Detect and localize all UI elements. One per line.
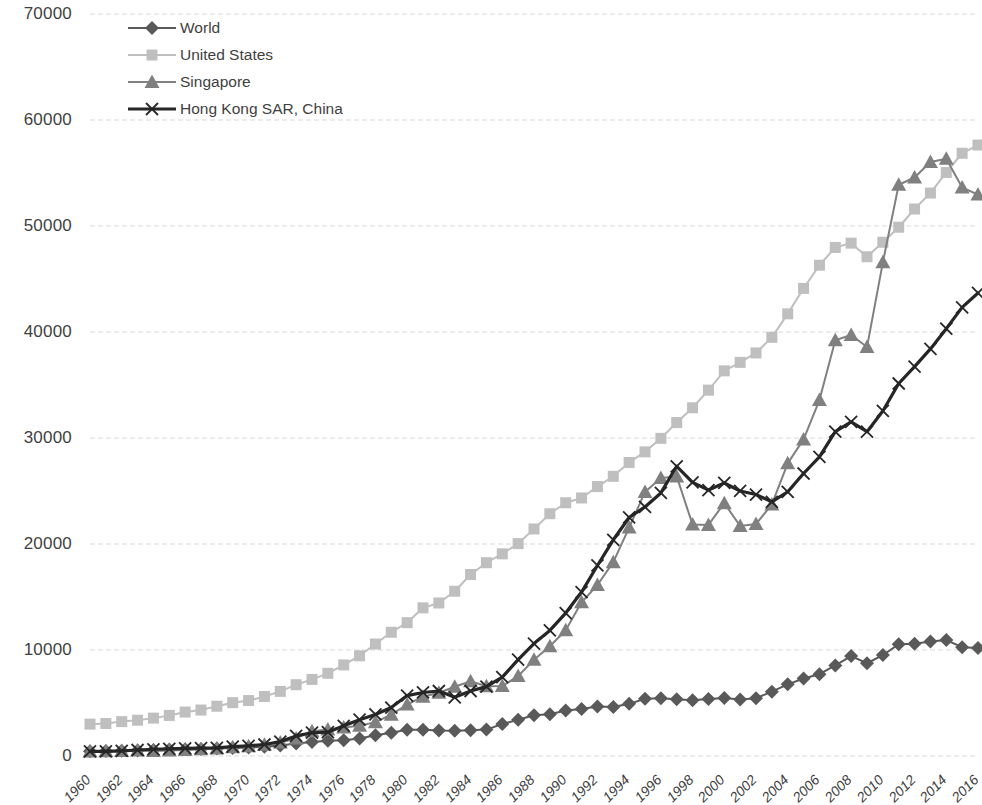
data-point-marker xyxy=(527,708,541,722)
x-tick-label: 2012 xyxy=(885,772,918,805)
data-point-marker xyxy=(877,405,889,417)
x-tick-label: 2000 xyxy=(695,772,728,805)
data-point-marker xyxy=(145,21,159,35)
y-tick-label: 20000 xyxy=(24,534,72,554)
data-point-marker xyxy=(575,702,589,716)
data-point-marker xyxy=(971,641,982,655)
data-point-marker xyxy=(781,677,795,691)
data-point-marker xyxy=(703,385,714,396)
y-tick-label: 30000 xyxy=(24,428,72,448)
data-point-marker xyxy=(100,718,111,729)
data-point-marker xyxy=(354,650,365,661)
data-point-marker xyxy=(511,713,525,727)
series-hong-kong-sar-china xyxy=(84,287,982,757)
data-point-marker xyxy=(447,679,462,693)
legend-item-label: World xyxy=(180,19,220,37)
data-point-marker xyxy=(957,148,968,159)
y-tick-label: 70000 xyxy=(24,4,72,24)
data-point-marker xyxy=(479,723,493,737)
legend-item-world[interactable]: World xyxy=(128,18,343,38)
legend-item-united-states[interactable]: United States xyxy=(128,45,343,65)
data-point-marker xyxy=(670,692,684,706)
x-tick-label: 1988 xyxy=(504,772,537,805)
legend-item-hong-kong-sar-china[interactable]: Hong Kong SAR, China xyxy=(128,99,343,119)
data-point-marker xyxy=(939,151,954,165)
data-point-marker xyxy=(797,672,811,686)
data-point-marker xyxy=(322,668,333,679)
data-point-marker xyxy=(418,602,429,613)
y-tick-label: 40000 xyxy=(24,322,72,342)
data-point-marker xyxy=(718,477,730,489)
data-point-marker xyxy=(798,468,810,480)
data-point-marker xyxy=(337,733,351,747)
data-point-marker xyxy=(829,426,841,438)
data-point-marker xyxy=(624,457,635,468)
data-point-marker xyxy=(544,624,556,636)
data-point-marker xyxy=(655,487,667,499)
data-point-marker xyxy=(590,699,604,713)
data-point-marker xyxy=(733,693,747,707)
data-point-marker xyxy=(971,187,982,201)
y-tick-label: 0 xyxy=(62,746,72,766)
data-point-marker xyxy=(497,548,508,559)
data-point-marker xyxy=(972,287,982,299)
legend-swatch-icon xyxy=(128,47,176,63)
data-point-marker xyxy=(132,715,143,726)
data-point-marker xyxy=(259,691,270,702)
data-point-marker xyxy=(973,140,982,151)
data-point-marker xyxy=(368,728,382,742)
data-point-marker xyxy=(640,446,651,457)
series-world xyxy=(83,633,982,758)
data-point-marker xyxy=(923,635,937,649)
data-point-marker xyxy=(798,283,809,294)
data-point-marker xyxy=(812,393,827,407)
data-point-marker xyxy=(433,597,444,608)
data-point-marker xyxy=(464,723,478,737)
data-point-marker xyxy=(655,433,666,444)
data-point-marker xyxy=(338,659,349,670)
data-point-marker xyxy=(845,416,857,428)
data-point-marker xyxy=(909,361,921,373)
legend-item-label: United States xyxy=(180,46,273,64)
data-point-marker xyxy=(558,623,573,637)
data-point-marker xyxy=(893,377,905,389)
chart-legend: WorldUnited StatesSingaporeHong Kong SAR… xyxy=(128,18,343,119)
data-point-marker xyxy=(608,471,619,482)
data-point-marker xyxy=(638,692,652,706)
data-point-marker xyxy=(559,704,573,718)
x-tick-label: 1984 xyxy=(441,772,474,805)
x-tick-label: 1994 xyxy=(599,772,632,805)
data-point-marker xyxy=(717,496,732,510)
data-point-marker xyxy=(164,710,175,721)
data-point-marker xyxy=(448,724,462,738)
data-point-marker xyxy=(955,180,970,194)
data-point-marker xyxy=(370,639,381,650)
x-tick-label: 1964 xyxy=(124,772,157,805)
data-point-marker xyxy=(751,347,762,358)
y-tick-label: 10000 xyxy=(24,640,72,660)
x-tick-label: 1976 xyxy=(314,772,347,805)
data-point-marker xyxy=(701,692,715,706)
data-point-marker xyxy=(116,716,127,727)
data-point-marker xyxy=(402,617,413,628)
data-point-marker xyxy=(275,686,286,697)
x-tick-label: 2010 xyxy=(853,772,886,805)
legend-swatch-icon xyxy=(128,101,176,117)
x-tick-label: 1980 xyxy=(377,772,410,805)
legend-item-singapore[interactable]: Singapore xyxy=(128,72,343,92)
series-united-states xyxy=(85,140,982,730)
data-point-marker xyxy=(860,656,874,670)
data-point-marker xyxy=(606,555,621,569)
data-point-marker xyxy=(813,451,825,463)
x-axis: 1960196219641966196819701972197419761978… xyxy=(90,760,978,805)
data-point-marker xyxy=(592,481,603,492)
data-point-marker xyxy=(386,627,397,638)
y-axis: 010000200003000040000500006000070000 xyxy=(0,0,82,805)
data-point-marker xyxy=(782,486,794,498)
data-point-marker xyxy=(925,188,936,199)
data-point-marker xyxy=(560,497,571,508)
data-point-marker xyxy=(844,327,859,341)
data-point-marker xyxy=(591,559,603,571)
data-point-marker xyxy=(939,633,953,647)
